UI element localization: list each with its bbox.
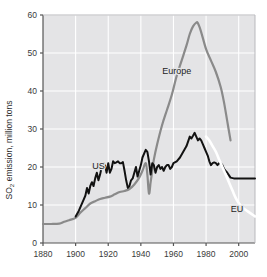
- svg-text:0: 0: [32, 238, 37, 248]
- svg-text:1880: 1880: [34, 249, 53, 259]
- svg-text:60: 60: [28, 10, 38, 20]
- svg-text:1960: 1960: [164, 249, 183, 259]
- svg-text:2000: 2000: [229, 249, 248, 259]
- annotation-eu: EU: [231, 204, 244, 214]
- chart-canvas: 0102030405060 18801900192019401960198020…: [0, 0, 267, 277]
- so2-emission-chart-figure: 0102030405060 18801900192019401960198020…: [0, 0, 267, 277]
- svg-text:30: 30: [28, 124, 38, 134]
- svg-text:1940: 1940: [131, 249, 150, 259]
- annotation-europe: Europe: [162, 66, 191, 76]
- svg-text:1900: 1900: [66, 249, 85, 259]
- svg-text:10: 10: [28, 200, 38, 210]
- svg-text:20: 20: [28, 162, 38, 172]
- svg-text:50: 50: [28, 48, 38, 58]
- annotation-us: US: [92, 161, 105, 171]
- svg-text:SO2 emission, million tons: SO2 emission, million tons: [4, 101, 15, 200]
- svg-text:1980: 1980: [197, 249, 216, 259]
- svg-text:40: 40: [28, 86, 38, 96]
- svg-text:1920: 1920: [99, 249, 118, 259]
- y-axis-title: SO2 emission, million tons: [4, 101, 15, 200]
